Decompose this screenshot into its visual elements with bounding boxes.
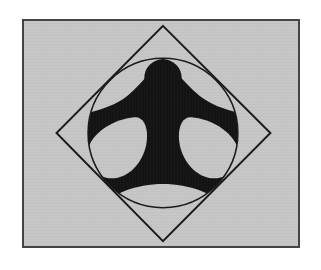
figure-illustration: [24, 21, 298, 246]
figure-panel: [22, 19, 300, 248]
between-legs-cutout: [86, 184, 240, 246]
figure-neck: [151, 80, 175, 109]
